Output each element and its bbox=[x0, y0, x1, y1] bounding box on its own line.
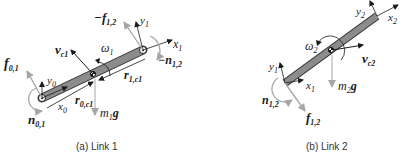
r0c1-label: r0,c1 bbox=[75, 93, 93, 109]
y1-axis-arrow-b bbox=[280, 63, 285, 83]
y1-label-a: y1 bbox=[139, 14, 149, 29]
x2-label: x2 bbox=[387, 11, 397, 26]
x1-label-b: x1 bbox=[305, 79, 315, 94]
vc1-label: vc1 bbox=[55, 42, 68, 59]
caption-link1: (a) Link 1 bbox=[76, 141, 118, 152]
n12-label: n1,2 bbox=[262, 93, 279, 109]
y2-label: y2 bbox=[355, 5, 365, 20]
m1g-label: m1g bbox=[100, 106, 119, 122]
neg-n12-label: −n1,2 bbox=[158, 53, 182, 69]
w2-label: ω2 bbox=[305, 39, 317, 55]
f01-label: f0,1 bbox=[4, 56, 19, 73]
f12-force-arrow bbox=[285, 83, 305, 111]
w1-label: ω1 bbox=[101, 41, 113, 57]
x1-label-a: x1 bbox=[172, 37, 182, 53]
dynamics-diagram: f0,1 n0,1 y0 x0 r0,c1 m1g vc1 ω1 r1,c1 −… bbox=[0, 0, 410, 160]
y1-label-b: y1 bbox=[268, 60, 278, 75]
vc2-label: vc2 bbox=[362, 51, 375, 68]
y0-label: y0 bbox=[46, 74, 56, 89]
r1c1-label: r1,c1 bbox=[124, 68, 142, 84]
panel-link2: y2 x2 ω2 vc2 y1 x1 m2g n1,2 f1,2 (b) Lin… bbox=[262, 1, 398, 152]
neg-f12-force-arrow bbox=[124, 22, 143, 50]
n01-label: n0,1 bbox=[28, 112, 45, 129]
x0-label: x0 bbox=[57, 100, 67, 115]
m2g-label: m2g bbox=[338, 79, 357, 95]
link2-bar bbox=[285, 16, 377, 83]
vc1-velocity-arrow bbox=[71, 50, 93, 74]
neg-f12-label: −f1,2 bbox=[94, 10, 116, 27]
f12-label: f1,2 bbox=[306, 110, 320, 127]
panel-link1: f0,1 n0,1 y0 x0 r0,c1 m1g vc1 ω1 r1,c1 −… bbox=[4, 10, 182, 152]
caption-link2: (b) Link 2 bbox=[306, 141, 348, 152]
